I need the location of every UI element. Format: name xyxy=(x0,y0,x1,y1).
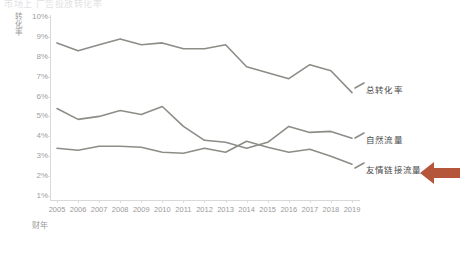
x-axis-tick-mark xyxy=(289,200,290,203)
series-lines xyxy=(0,0,466,257)
y-axis-tick-mark xyxy=(46,136,50,137)
x-axis-tick-mark xyxy=(247,200,248,203)
x-axis-tick-mark xyxy=(57,200,58,203)
y-axis-tick-mark xyxy=(46,97,50,98)
y-axis-tick-mark xyxy=(46,77,50,78)
x-axis-tick-mark xyxy=(331,200,332,203)
left-arrow-icon xyxy=(418,160,462,186)
x-axis-tick-mark xyxy=(268,200,269,203)
y-axis-tick-mark xyxy=(46,57,50,58)
x-axis-tick-mark xyxy=(183,200,184,203)
series-path-organic xyxy=(57,107,352,149)
x-axis-tick-mark xyxy=(352,200,353,203)
x-axis-tick-mark xyxy=(120,200,121,203)
x-axis-tick-mark xyxy=(141,200,142,203)
y-axis-tick-mark xyxy=(46,37,50,38)
y-axis-tick-mark xyxy=(46,116,50,117)
x-axis-title: 财年 xyxy=(32,219,48,230)
y-axis-tick-mark xyxy=(46,17,50,18)
x-axis-tick-label: 2019 xyxy=(337,205,367,214)
x-axis-tick-mark xyxy=(226,200,227,203)
series-path-total xyxy=(57,39,352,93)
x-axis-tick-mark xyxy=(162,200,163,203)
x-axis-tick-mark xyxy=(204,200,205,203)
x-axis-tick-mark xyxy=(78,200,79,203)
y-axis-tick-mark xyxy=(46,176,50,177)
series-label-organic: 自然流量 xyxy=(366,135,403,145)
series-leader-line xyxy=(355,163,364,168)
chart-figure: 市场上 广告投放转化率 转化率 10%9%8%7%6%5%4%3%2%1% 总转… xyxy=(0,0,466,257)
series-leader-line xyxy=(355,83,364,88)
series-label-referral: 友情链接流量 xyxy=(366,165,421,175)
plot-area: 转化率 10%9%8%7%6%5%4%3%2%1% 总转化率 自然流量 友情链接… xyxy=(0,0,466,257)
series-label-total: 总转化率 xyxy=(366,85,403,95)
x-axis-tick-mark xyxy=(310,200,311,203)
y-axis-tick-mark xyxy=(46,196,50,197)
x-axis-tick-mark xyxy=(99,200,100,203)
series-path-referral xyxy=(57,141,352,164)
y-axis-tick-mark xyxy=(46,156,50,157)
series-leader-line xyxy=(355,133,364,138)
